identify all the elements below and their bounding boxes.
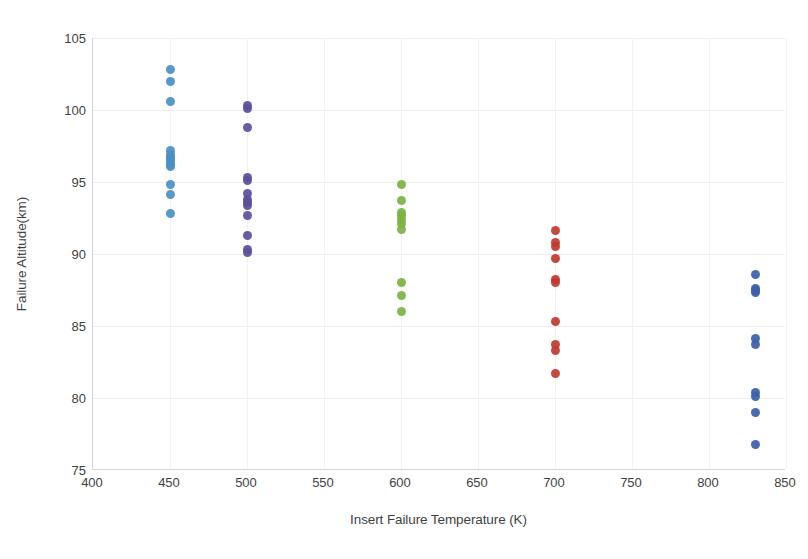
- data-point: [397, 225, 406, 234]
- gridline-horizontal: [93, 398, 785, 399]
- x-axis-tick-label: 450: [139, 475, 199, 490]
- data-point: [751, 440, 760, 449]
- x-axis-tick-label: 500: [216, 475, 276, 490]
- gridline-horizontal: [93, 254, 785, 255]
- y-axis-tick-label: 80: [42, 391, 86, 406]
- gridline-vertical: [709, 38, 710, 469]
- x-axis-tick-label: 800: [678, 475, 738, 490]
- x-axis-tick-label: 750: [601, 475, 661, 490]
- data-point: [243, 123, 252, 132]
- data-point: [166, 180, 175, 189]
- data-point: [551, 242, 560, 251]
- data-point: [166, 77, 175, 86]
- data-point: [166, 190, 175, 199]
- gridline-horizontal: [93, 326, 785, 327]
- gridline-vertical: [478, 38, 479, 469]
- data-point: [751, 270, 760, 279]
- data-point: [397, 291, 406, 300]
- y-axis-tick-label: 85: [42, 319, 86, 334]
- x-axis-tick-labels: 400450500550600650700750800850: [92, 471, 785, 499]
- data-point: [166, 65, 175, 74]
- gridline-horizontal: [93, 182, 785, 183]
- data-point: [397, 196, 406, 205]
- y-axis-tick-label: 105: [42, 31, 86, 46]
- data-point: [243, 104, 252, 113]
- data-point: [751, 392, 760, 401]
- plot-area: [92, 38, 785, 470]
- data-point: [397, 307, 406, 316]
- data-point: [551, 369, 560, 378]
- data-point: [397, 278, 406, 287]
- x-axis-tick-label: 600: [370, 475, 430, 490]
- gridline-vertical: [401, 38, 402, 469]
- y-axis-tick-label: 95: [42, 175, 86, 190]
- gridline-vertical: [786, 38, 787, 469]
- x-axis-tick-label: 700: [524, 475, 584, 490]
- data-point: [551, 254, 560, 263]
- data-point: [166, 97, 175, 106]
- data-point: [551, 278, 560, 287]
- data-point: [751, 340, 760, 349]
- data-point: [751, 286, 760, 295]
- x-axis-tick-label: 850: [755, 475, 808, 490]
- data-point: [243, 231, 252, 240]
- scatter-chart: Failure Altitude(km) 7580859095100105 40…: [0, 0, 808, 559]
- data-point: [243, 211, 252, 220]
- data-point: [243, 198, 252, 207]
- y-axis-tick-labels: 7580859095100105: [38, 38, 86, 470]
- x-axis-tick-label: 400: [62, 475, 122, 490]
- x-axis-tick-label: 650: [447, 475, 507, 490]
- gridline-horizontal: [93, 110, 785, 111]
- x-axis-title: Insert Failure Temperature (K): [92, 512, 785, 527]
- data-point: [751, 408, 760, 417]
- y-axis-tick-label: 90: [42, 247, 86, 262]
- data-point: [551, 317, 560, 326]
- gridline-horizontal: [93, 38, 785, 39]
- data-point: [397, 180, 406, 189]
- y-axis-tick-label: 100: [42, 103, 86, 118]
- data-point: [551, 226, 560, 235]
- x-axis-tick-label: 550: [293, 475, 353, 490]
- data-point: [397, 208, 406, 217]
- gridline-vertical: [324, 38, 325, 469]
- data-point: [166, 160, 175, 169]
- data-point: [243, 248, 252, 257]
- gridline-vertical: [632, 38, 633, 469]
- data-point: [166, 209, 175, 218]
- y-axis-title: Failure Altitude(km): [6, 38, 36, 470]
- data-point: [243, 176, 252, 185]
- data-point: [551, 346, 560, 355]
